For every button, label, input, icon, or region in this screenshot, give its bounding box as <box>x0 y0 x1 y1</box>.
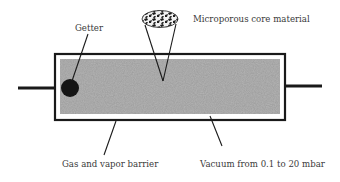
core-fill <box>60 59 280 114</box>
vip-diagram <box>0 0 340 182</box>
barrier-leader <box>104 121 116 155</box>
getter-label: Getter <box>75 24 103 33</box>
getter-circle <box>61 79 79 97</box>
vacuum-label: Vacuum from 0.1 to 20 mbar <box>200 160 325 169</box>
core-magnified-disc <box>142 11 178 28</box>
barrier-label: Gas and vapor barrier <box>62 160 158 169</box>
core-material-label: Microporous core material <box>193 15 310 24</box>
